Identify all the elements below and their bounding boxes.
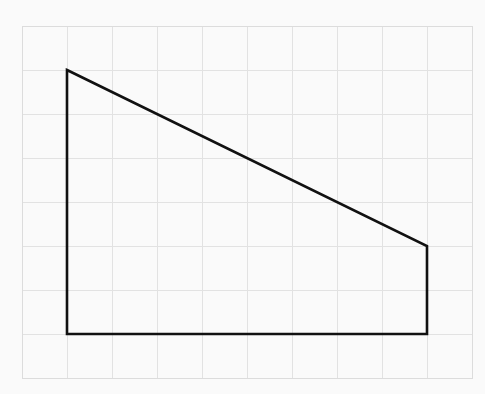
figure-canvas xyxy=(0,0,485,394)
grid-figure-svg xyxy=(0,0,485,394)
